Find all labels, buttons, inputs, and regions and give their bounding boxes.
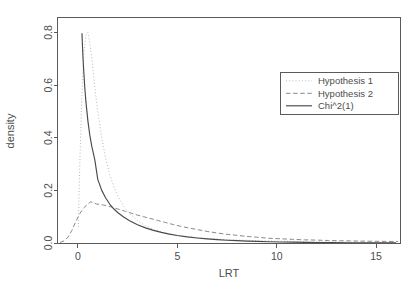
y-tick-label: 0.2 [42, 183, 54, 198]
x-tick-label: 0 [75, 250, 81, 262]
plot-svg: 051015 0.00.20.40.60.8 LRT density Hypot… [0, 0, 420, 293]
figure-background [0, 0, 420, 293]
x-tick-label: 5 [174, 250, 180, 262]
x-tick-label: 15 [370, 250, 382, 262]
x-tick-label: 10 [271, 250, 283, 262]
legend: Hypothesis 1Hypothesis 2Chi^2(1) [281, 73, 399, 115]
x-axis-title: LRT [219, 267, 240, 279]
density-plot-figure: 051015 0.00.20.40.60.8 LRT density Hypot… [0, 0, 420, 293]
y-tick-label: 0.6 [42, 78, 54, 93]
legend-label-2: Hypothesis 2 [318, 88, 373, 99]
y-axis-title: density [4, 113, 16, 148]
legend-label-1: Hypothesis 1 [318, 75, 373, 86]
y-tick-label: 0.8 [42, 25, 54, 40]
y-tick-label: 0.0 [42, 236, 54, 251]
y-tick-label: 0.4 [42, 130, 54, 145]
legend-label-3: Chi^2(1) [318, 100, 354, 111]
